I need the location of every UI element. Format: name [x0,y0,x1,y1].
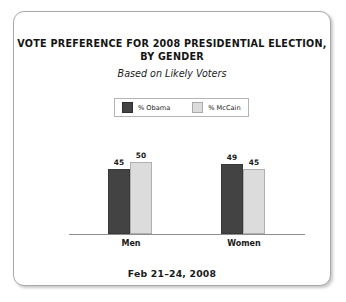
bar-women-obama[interactable] [221,164,243,234]
bar-wrap-women-obama: 49 [221,164,243,234]
chart-legend: % Obama % McCain [114,98,249,117]
category-labels: Men Women [14,239,330,251]
bar-men-obama[interactable] [108,169,130,234]
chart-card: VOTE PREFERENCE FOR 2008 PRESIDENTIAL EL… [13,11,331,286]
legend-entry-obama[interactable]: % Obama [122,102,170,113]
light-gray-swatch-icon [192,102,203,113]
chart-title-line-1: VOTE PREFERENCE FOR 2008 PRESIDENTIAL EL… [14,38,330,51]
bar-value-men-mccain: 50 [130,151,152,160]
category-label-men: Men [96,239,166,248]
bar-value-women-obama: 49 [221,153,243,162]
plot-area: 45 50 49 45 [14,130,330,235]
category-label-women: Women [209,239,279,248]
bar-value-women-mccain: 45 [243,158,265,167]
x-axis-baseline [69,234,305,235]
bar-wrap-men-mccain: 50 [130,162,152,234]
dark-gray-swatch-icon [122,102,133,113]
chart-footer-date: Feb 21–24, 2008 [14,268,330,279]
bar-group-women: 49 45 [221,164,265,234]
chart-title-line-2: BY GENDER [14,51,330,64]
chart-subtitle: Based on Likely Voters [14,68,330,80]
bar-wrap-women-mccain: 45 [243,169,265,234]
bar-men-mccain[interactable] [130,162,152,234]
chart-title-block: VOTE PREFERENCE FOR 2008 PRESIDENTIAL EL… [14,38,330,80]
bar-group-men: 45 50 [108,162,152,234]
legend-label-obama: % Obama [138,104,170,112]
bar-women-mccain[interactable] [243,169,265,234]
bar-wrap-men-obama: 45 [108,169,130,234]
legend-label-mccain: % McCain [208,104,240,112]
bar-value-men-obama: 45 [108,158,130,167]
legend-entry-mccain[interactable]: % McCain [192,102,240,113]
